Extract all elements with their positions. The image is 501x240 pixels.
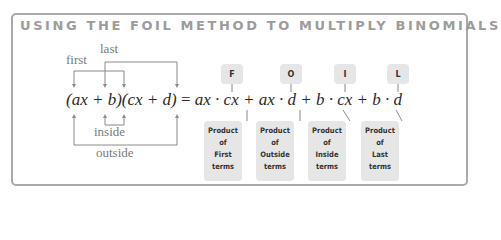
- product-last-line2: of: [361, 137, 399, 149]
- product-inside-line1: Product: [308, 125, 346, 137]
- tag-i: I: [334, 64, 356, 84]
- equation-equals: =: [181, 90, 191, 109]
- product-last-line1: Product: [361, 125, 399, 137]
- product-last-box: Product of Last terms: [361, 121, 399, 181]
- tag-l: L: [387, 64, 409, 84]
- product-first-line4: terms: [204, 161, 242, 173]
- foil-equation: (ax + b)(cx + d) = ax · cx + ax · d + b …: [66, 90, 402, 110]
- product-last-line3: Last: [361, 149, 399, 161]
- product-first-line1: Product: [204, 125, 242, 137]
- label-outside: outside: [96, 145, 134, 161]
- label-first: first: [66, 52, 87, 68]
- product-outside-box: Product of Outside terms: [256, 121, 294, 181]
- product-outside-line3: Outside: [256, 149, 294, 161]
- product-last-line4: terms: [361, 161, 399, 173]
- product-outside-line1: Product: [256, 125, 294, 137]
- tag-f: F: [221, 64, 243, 84]
- label-last: last: [100, 41, 118, 57]
- product-inside-box: Product of Inside terms: [308, 121, 346, 181]
- product-inside-line3: Inside: [308, 149, 346, 161]
- product-outside-line4: terms: [256, 161, 294, 173]
- equation-lhs: (ax + b)(cx + d): [66, 90, 177, 109]
- product-inside-line4: terms: [308, 161, 346, 173]
- product-outside-line2: of: [256, 137, 294, 149]
- tag-o: O: [280, 64, 302, 84]
- product-first-line2: of: [204, 137, 242, 149]
- label-inside: inside: [94, 124, 125, 140]
- product-first-line3: First: [204, 149, 242, 161]
- product-first-box: Product of First terms: [204, 121, 242, 181]
- equation-rhs: ax · cx + ax · d + b · cx + b · d: [195, 90, 402, 109]
- product-inside-line2: of: [308, 137, 346, 149]
